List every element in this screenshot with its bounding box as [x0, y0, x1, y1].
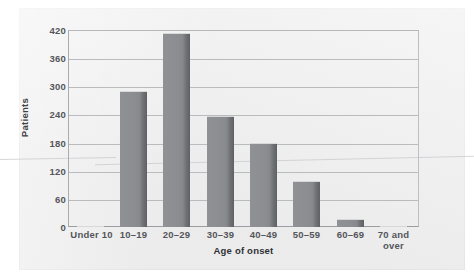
y-tick-label: 240: [32, 109, 66, 120]
y-tick-label: 60: [32, 194, 66, 205]
bar-highlight: [250, 143, 277, 144]
bar-10-19: [120, 91, 147, 227]
bar-chart: Patients 420 360 300 240 180 120 60 0: [0, 0, 474, 276]
bar-highlight: [380, 226, 407, 227]
y-tick-label: 300: [32, 81, 66, 92]
y-tick-label: 0: [32, 222, 66, 233]
bar-highlight: [207, 116, 234, 117]
bar-50-59: [293, 181, 320, 227]
bar-40-49: [250, 143, 277, 227]
x-tick-label-line-1: 70 and: [366, 230, 421, 241]
scanned-page: Patients 420 360 300 240 180 120 60 0: [0, 0, 474, 276]
bar-highlight: [337, 219, 364, 220]
bar-slot-20-29: [163, 30, 190, 227]
y-tick-label: 360: [32, 53, 66, 64]
y-axis-tick-labels: 420 360 300 240 180 120 60 0: [32, 24, 66, 233]
y-tick-label: 420: [32, 25, 66, 36]
y-axis-title: Patients: [19, 78, 30, 158]
bar-30-39: [207, 116, 234, 227]
x-axis-title: Age of onset: [68, 245, 419, 256]
y-tick-label: 180: [32, 138, 66, 149]
bar-slot-60-69: [337, 30, 364, 227]
bar-slot-30-39: [207, 30, 234, 227]
bar-series: [69, 30, 418, 227]
bar-slot-under-10: [77, 30, 104, 227]
bar-highlight: [120, 91, 147, 92]
bar-slot-40-49: [250, 30, 277, 227]
bar-70-and-over: [380, 226, 407, 227]
bar-highlight: [77, 226, 104, 227]
bar-under-10: [77, 226, 104, 227]
y-tick-label: 120: [32, 166, 66, 177]
bar-highlight: [293, 181, 320, 182]
bar-60-69: [337, 219, 364, 227]
bar-slot-10-19: [120, 30, 147, 227]
bar-slot-50-59: [293, 30, 320, 227]
bar-20-29: [163, 33, 190, 227]
bar-slot-70-and-over: [380, 30, 407, 227]
bar-highlight: [163, 33, 190, 34]
